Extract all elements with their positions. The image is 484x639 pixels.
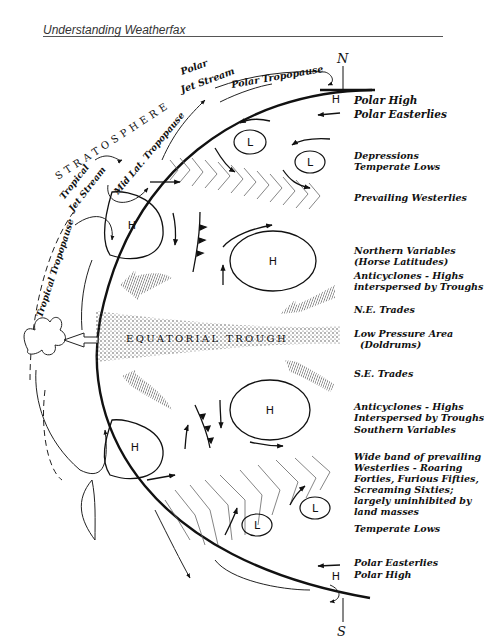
l-south-1: L <box>254 519 261 532</box>
zone-depressions: DepressionsTemperate Lows <box>354 150 440 172</box>
front-south <box>195 405 213 448</box>
zone-se-trades: S.E. Trades <box>354 368 413 379</box>
zone-prevailing-westerlies: Prevailing Westerlies <box>354 192 467 203</box>
h-north-east: H <box>269 255 277 268</box>
l-north-2: L <box>307 156 314 169</box>
zone-doldrums: Low Pressure Area(Doldrums) <box>354 328 453 350</box>
zone-polar-high-n: Polar High <box>354 94 417 106</box>
westerlies-chevrons-south <box>165 456 330 545</box>
front-north <box>193 212 206 272</box>
ne-trades-arrow-left <box>120 270 172 300</box>
tropical-tropopause-label: Tropical Tropopause <box>34 217 75 318</box>
zone-polar-easterlies-s: Polar Easterlies <box>354 557 438 568</box>
l-north-1: L <box>247 136 254 149</box>
zone-southern-variables: Southern Variables <box>354 424 456 435</box>
north-pole-label: N <box>336 51 349 66</box>
se-trades-arrow-right <box>285 360 335 392</box>
zone-ne-trades: N.E. Trades <box>354 304 415 315</box>
h-south-pole: H <box>332 570 340 583</box>
zone-temperate-lows-s: Temperate Lows <box>354 523 440 534</box>
south-pole-label: S <box>337 624 346 639</box>
h-south-east: H <box>266 404 274 417</box>
l-south-2: L <box>312 502 319 515</box>
h-south-west: H <box>131 441 139 454</box>
equatorial-trough-label: EQUATORIAL TROUGH <box>126 333 288 344</box>
big-arrow-left <box>64 333 98 347</box>
zone-polar-high-s: Polar High <box>354 569 411 580</box>
zone-polar-easterlies-n: Polar Easterlies <box>354 108 447 120</box>
h-north-pole: H <box>332 93 340 106</box>
zone-anticyclones-s: Anticyclones - HighsInterspersed by Trou… <box>354 401 484 423</box>
zone-anticyclones-n: Anticyclones - Highsinterspersed by Trou… <box>354 270 483 292</box>
convection-cloud <box>24 317 65 354</box>
se-trades-arrow-left <box>122 370 172 410</box>
h-north-west: H <box>128 219 136 232</box>
zone-roaring-forties: Wide band of prevailingWesterlies - Roar… <box>354 451 481 517</box>
zone-northern-variables: Northern Variables(Horse Latitudes) <box>354 245 456 267</box>
polar-tropopause-label: Polar Tropopause <box>229 63 324 90</box>
